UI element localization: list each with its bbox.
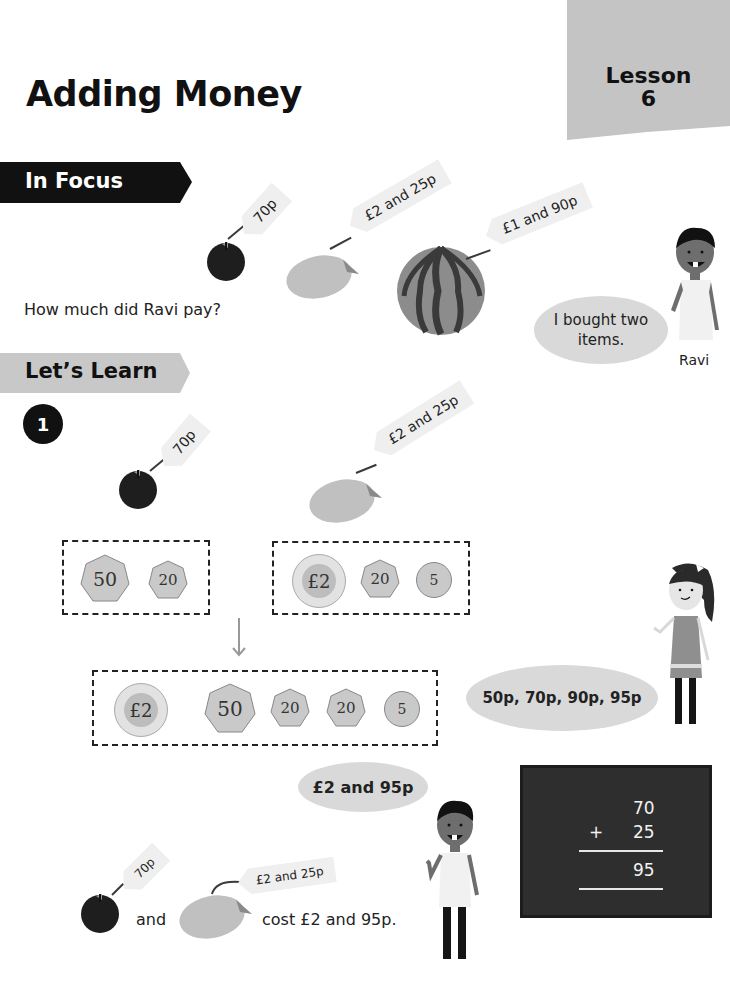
lesson-label: Lesson [567,64,730,87]
boy-character [425,795,485,965]
down-arrow-icon [232,618,246,658]
ravi-speech-bubble: I bought two items. [534,296,668,364]
sum-underline [579,888,663,890]
plus-operator: + [589,822,603,842]
mango-icon [178,890,258,940]
coin-group-mango: £2 20 5 [272,541,470,615]
lesson-number: 6 [567,87,730,110]
result-text: cost £2 and 95p. [262,910,397,929]
coin-50p: 50 [80,554,130,604]
coin-group-apple: 50 20 [62,540,210,615]
in-focus-banner: In Focus [0,162,192,203]
ravi-name-label: Ravi [679,352,709,368]
price-tag: £2 and 25p [367,380,475,462]
coin-20p: 20 [148,560,188,600]
girl-speech-bubble: 50p, 70p, 90p, 95p [466,665,658,731]
price-tag: 70p [234,182,293,243]
ravi-character [665,220,725,350]
price-tag: 70p [153,414,211,475]
coin-2-pound: £2 [114,683,168,737]
sum: 95 [633,860,655,880]
question-text: How much did Ravi pay? [24,300,221,319]
mango-icon [308,474,388,524]
girl-character [650,560,720,730]
blackboard: 70 + 25 95 [520,765,712,918]
and-text: and [136,910,166,929]
page-title: Adding Money [26,74,302,114]
price-tag: £1 and 90p [481,182,593,249]
lets-learn-label: Let’s Learn [25,359,158,383]
coin-50p: 50 [204,683,256,735]
price-tag: 70p [115,842,171,898]
apple-icon [206,238,246,282]
boy-speech-bubble: £2 and 95p [298,762,428,812]
addend-2: 25 [633,822,655,842]
lets-learn-banner: Let’s Learn [0,353,190,393]
lesson-tab: Lesson 6 [567,0,730,140]
combined-coin-group: £2 50 20 20 5 [92,670,438,746]
price-tag: £2 and 25p [343,159,452,238]
in-focus-label: In Focus [25,169,123,193]
coin-20p: 20 [360,559,400,599]
coin-5p: 5 [384,691,420,727]
coin-20p: 20 [270,688,310,728]
apple-icon [80,890,120,934]
step-number-badge: 1 [23,404,63,444]
price-tag: £2 and 25p [236,856,337,895]
sum-rule [579,850,663,852]
mango-icon [285,250,365,300]
coin-2-pound: £2 [292,554,346,608]
addend-1: 70 [633,798,655,818]
watermelon-icon [396,246,486,336]
coin-20p: 20 [326,688,366,728]
apple-icon [118,466,158,510]
coin-5p: 5 [416,562,452,598]
